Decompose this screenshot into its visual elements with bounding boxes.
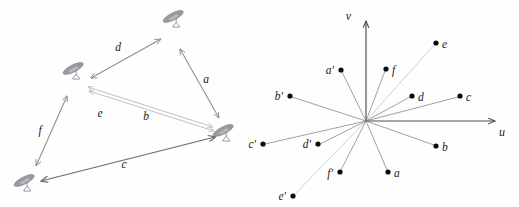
uv-spoke-a-conj: [342, 72, 366, 121]
figure-canvas: d a e b c f u v: [0, 0, 519, 207]
uv-label-c: c: [466, 91, 471, 103]
baseline-group: [36, 39, 219, 181]
figure-svg: d a e b c f u v: [0, 0, 519, 207]
uv-label-a: a: [394, 167, 400, 179]
uv-point-a-conj: [338, 67, 343, 72]
uv-spoke-c: [366, 97, 458, 121]
uv-axes: u v: [346, 9, 505, 139]
uv-point-b-conj: [287, 93, 292, 98]
baseline-arrow-b: [89, 91, 214, 131]
u-axis-label: u: [499, 125, 505, 139]
satellite-dish-icon: [212, 122, 235, 141]
baseline-label-b: b: [143, 110, 149, 122]
uv-spoke-b: [366, 121, 434, 145]
uv-spoke-d-conj: [320, 121, 366, 144]
uv-label-e: e: [442, 38, 447, 50]
uv-label-c-conj: c': [248, 138, 256, 150]
uv-point-a: [385, 169, 390, 174]
uv-spoke-c-conj: [265, 121, 366, 144]
uv-point-e: [433, 40, 438, 45]
baseline-arrow-a: [180, 49, 219, 118]
uv-point-e-conj: [290, 193, 295, 198]
uv-point-b: [433, 143, 438, 148]
uv-spoke-b-conj: [292, 97, 366, 121]
uv-point-f: [383, 66, 388, 71]
uv-point-c-conj: [260, 141, 265, 146]
baseline-label-e: e: [97, 107, 102, 119]
uv-point-f-conj: [337, 169, 342, 174]
uv-label-b: b: [442, 141, 448, 153]
uv-spoke-e: [366, 45, 434, 121]
uv-spoke-d: [366, 97, 410, 121]
baseline-label-a: a: [203, 73, 209, 85]
uv-point-label-group: a a' b b' c c' d d' e e' f f': [248, 38, 471, 202]
uv-label-d-conj: d': [303, 138, 312, 150]
uv-spoke-f: [366, 71, 385, 121]
baseline-arrow-e: [88, 87, 213, 127]
uv-label-a-conj: a': [326, 64, 335, 76]
uv-spoke-e-conj: [295, 121, 366, 194]
uv-point-c: [457, 93, 462, 98]
baseline-arrow-c: [41, 137, 215, 181]
uv-spoke-a: [366, 121, 387, 170]
baseline-label-f: f: [38, 124, 43, 137]
uv-label-e-conj: e': [278, 190, 286, 202]
v-axis-label: v: [346, 9, 352, 23]
baseline-arrow-d: [91, 39, 161, 78]
uv-point-d: [409, 93, 414, 98]
uv-point-d-conj: [315, 141, 320, 146]
uv-label-f: f: [392, 64, 397, 77]
uv-spoke-group: [265, 45, 458, 194]
baseline-label-group: d a e b c f: [38, 41, 209, 170]
uv-label-b-conj: b': [275, 90, 284, 102]
uv-coverage-plot: u v: [248, 9, 505, 202]
satellite-dish-icon: [62, 60, 85, 79]
baseline-label-c: c: [121, 158, 126, 170]
uv-label-d: d: [418, 91, 424, 103]
satellite-dish-icon: [13, 172, 36, 191]
uv-spoke-f-conj: [341, 121, 366, 170]
satellite-dish-icon: [162, 8, 185, 27]
antenna-array-layout: d a e b c f: [13, 8, 235, 191]
uv-label-f-conj: f': [327, 167, 333, 180]
baseline-label-d: d: [115, 41, 121, 53]
